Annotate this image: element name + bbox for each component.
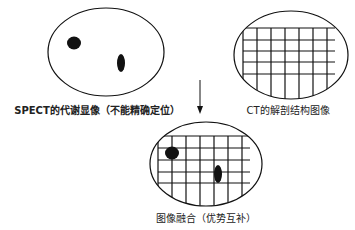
fused-hotspot-round: [165, 147, 179, 160]
hotspot-round: [67, 37, 81, 50]
fusion-label: 图像融合（优势互补）: [156, 210, 256, 225]
fused-hotspot-oval: [214, 165, 222, 183]
fusion-image: [150, 122, 262, 210]
ct-image: [234, 11, 348, 100]
down-arrow-icon: [197, 80, 203, 114]
hotspot-oval: [117, 54, 125, 72]
spect-label: SPECT的代谢显像（不能精确定位）: [14, 102, 180, 117]
spect-image: [48, 8, 164, 96]
ct-label: CT的解剖结构图像: [246, 102, 329, 117]
